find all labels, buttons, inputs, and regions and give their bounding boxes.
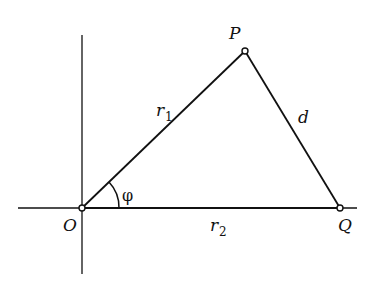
point-o: [79, 205, 85, 211]
point-q: [337, 205, 343, 211]
point-p: [242, 48, 248, 54]
edge-pq: [245, 51, 340, 208]
edge-op: [82, 51, 245, 208]
label-r1: r: [156, 100, 165, 120]
label-o: O: [63, 215, 77, 235]
angle-arc: [109, 182, 119, 208]
label-d: d: [298, 107, 309, 127]
label-r1-sub: 1: [165, 110, 173, 124]
label-q: Q: [338, 215, 352, 235]
label-phi: φ: [122, 186, 133, 205]
triangle-diagram: P O Q r 1 r 2 d φ: [0, 0, 383, 288]
label-r2-sub: 2: [219, 225, 227, 239]
label-r2: r: [210, 215, 219, 235]
label-p: P: [228, 23, 241, 43]
